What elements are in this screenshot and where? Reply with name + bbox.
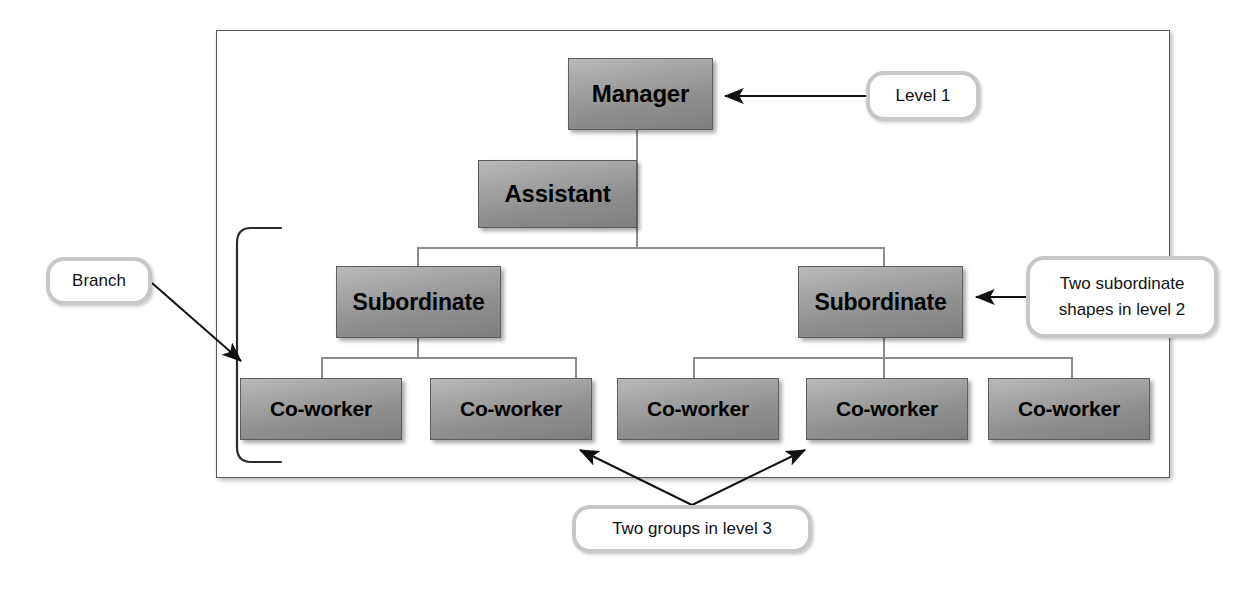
node-coworker-1[interactable]: Co-worker: [240, 378, 402, 440]
connector-cw3-drop: [693, 357, 695, 379]
callout-level2-line1: Two subordinate: [1060, 271, 1185, 297]
node-coworker-3-label: Co-worker: [647, 398, 749, 420]
node-assistant-label: Assistant: [504, 181, 610, 206]
node-coworker-4[interactable]: Co-worker: [806, 378, 968, 440]
node-coworker-3[interactable]: Co-worker: [617, 378, 779, 440]
node-subordinate-right[interactable]: Subordinate: [798, 266, 963, 338]
connector-level2-bar: [417, 247, 885, 249]
node-coworker-5[interactable]: Co-worker: [988, 378, 1150, 440]
node-subordinate-left-label: Subordinate: [353, 290, 485, 314]
callout-branch[interactable]: Branch: [46, 257, 152, 305]
node-coworker-5-label: Co-worker: [1018, 398, 1120, 420]
callout-level2-line2: shapes in level 2: [1059, 297, 1186, 323]
callout-level3-text: Two groups in level 3: [612, 516, 772, 542]
connector-sub-left-stem: [417, 338, 419, 358]
node-subordinate-left[interactable]: Subordinate: [336, 266, 501, 338]
callout-level1[interactable]: Level 1: [866, 71, 980, 121]
node-manager[interactable]: Manager: [568, 58, 713, 130]
callout-level1-text: Level 1: [896, 83, 951, 109]
node-manager-label: Manager: [592, 81, 689, 106]
diagram-canvas: Manager Assistant Subordinate Subordinat…: [0, 0, 1257, 590]
connector-sub-left-bar: [321, 357, 577, 359]
connector-sub-right-stem: [883, 338, 885, 358]
connector-level2-right-drop: [883, 247, 885, 267]
connector-cw5-drop: [1071, 357, 1073, 379]
connector-cw4-drop: [883, 357, 885, 379]
node-assistant[interactable]: Assistant: [478, 160, 637, 228]
node-coworker-2-label: Co-worker: [460, 398, 562, 420]
node-subordinate-right-label: Subordinate: [815, 290, 947, 314]
callout-branch-text: Branch: [72, 268, 126, 294]
connector-level2-left-drop: [417, 247, 419, 267]
node-coworker-4-label: Co-worker: [836, 398, 938, 420]
node-coworker-1-label: Co-worker: [270, 398, 372, 420]
connector-cw1-drop: [321, 357, 323, 379]
connector-cw2-drop: [575, 357, 577, 379]
callout-level3[interactable]: Two groups in level 3: [572, 505, 812, 553]
node-coworker-2[interactable]: Co-worker: [430, 378, 592, 440]
callout-level2[interactable]: Two subordinate shapes in level 2: [1026, 256, 1218, 338]
